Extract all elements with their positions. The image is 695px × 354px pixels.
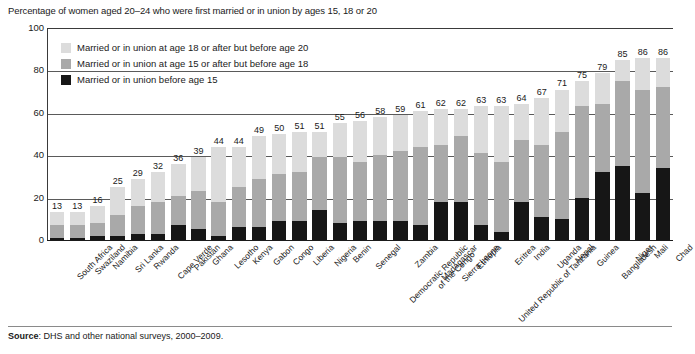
x-tick-label-line: Zambia: [414, 243, 441, 270]
bar-segment-age18to20: [434, 109, 449, 145]
bar-segment-before15: [575, 198, 590, 240]
bar-segment-age15to18: [393, 151, 408, 221]
bar-segment-before15: [615, 166, 630, 240]
bar-stack: [211, 147, 226, 240]
bar-value-label: 63: [476, 95, 486, 105]
bar-segment-age15to18: [312, 157, 327, 210]
bar-segment-age18to20: [211, 147, 226, 202]
bar-value-label: 44: [234, 136, 244, 146]
bar-segment-age18to20: [110, 187, 125, 215]
bar-segment-before15: [373, 221, 388, 240]
bar-value-label: 36: [173, 153, 183, 163]
bar-segment-age18to20: [656, 58, 671, 88]
bar-segment-before15: [555, 219, 570, 240]
bar-segment-age18to20: [70, 212, 85, 225]
bar-segment-before15: [474, 225, 489, 240]
bar-column[interactable]: 64: [514, 28, 529, 240]
bar-segment-age18to20: [191, 157, 206, 191]
bar-segment-age15to18: [151, 202, 166, 234]
bar-value-label: 79: [597, 62, 607, 72]
bar-segment-age18to20: [393, 115, 408, 151]
bar-segment-age15to18: [272, 174, 287, 221]
bar-column[interactable]: 62: [434, 28, 449, 240]
bar-column[interactable]: 67: [534, 28, 549, 240]
x-tick-label: Liberia: [312, 243, 337, 268]
bar-value-label: 44: [214, 136, 224, 146]
bar-segment-age15to18: [252, 179, 267, 228]
bar-value-label: 55: [335, 112, 345, 122]
legend-item: Married or in union at age 15 or after b…: [61, 56, 391, 71]
bar-value-label: 61: [416, 100, 426, 110]
bar-column[interactable]: 75: [575, 28, 590, 240]
bar-column[interactable]: 86: [656, 28, 671, 240]
bar-column[interactable]: 86: [635, 28, 650, 240]
bar-stack: [171, 164, 186, 240]
bar-segment-age15to18: [110, 215, 125, 236]
bar-column[interactable]: 62: [454, 28, 469, 240]
bar-segment-age15to18: [50, 225, 65, 238]
x-tick-label-line: Guinea: [595, 243, 621, 269]
bar-column[interactable]: 61: [413, 28, 428, 240]
bar-stack: [272, 134, 287, 240]
x-tick-label: Gabon: [272, 243, 297, 268]
legend-label: Married or in union at age 18 or after b…: [77, 42, 308, 53]
bar-segment-before15: [534, 217, 549, 240]
bar-stack: [635, 58, 650, 240]
bar-segment-age15to18: [635, 90, 650, 194]
bar-segment-age15to18: [595, 104, 610, 172]
bar-value-label: 58: [375, 106, 385, 116]
bar-segment-before15: [211, 236, 226, 240]
source-value: : DHS and other national surveys, 2000–2…: [39, 331, 224, 341]
bar-stack: [70, 212, 85, 240]
source-note: Source: DHS and other national surveys, …: [8, 331, 223, 341]
bar-value-label: 29: [133, 168, 143, 178]
x-axis-labels: South AfricaSwazilandNamibiaSri LankaRwa…: [47, 243, 673, 338]
bar-segment-age15to18: [434, 145, 449, 202]
bar-segment-before15: [90, 236, 105, 240]
bar-segment-age15to18: [474, 153, 489, 225]
bar-segment-age15to18: [534, 145, 549, 217]
bar-stack: [575, 81, 590, 240]
bar-stack: [252, 136, 267, 240]
bar-segment-before15: [635, 193, 650, 240]
legend-swatch-before15: [61, 75, 71, 85]
bar-stack: [333, 123, 348, 240]
bar-value-label: 50: [274, 123, 284, 133]
bar-column[interactable]: 63: [494, 28, 509, 240]
bar-column[interactable]: 85: [615, 28, 630, 240]
bar-value-label: 62: [436, 98, 446, 108]
bar-segment-age18to20: [353, 121, 368, 161]
bar-column[interactable]: 71: [555, 28, 570, 240]
y-tick-label: 20: [2, 192, 44, 203]
bar-column[interactable]: 63: [474, 28, 489, 240]
bar-column[interactable]: 59: [393, 28, 408, 240]
bar-value-label: 51: [294, 121, 304, 131]
bar-value-label: 56: [355, 110, 365, 120]
bar-segment-before15: [333, 223, 348, 240]
bar-value-label: 59: [395, 104, 405, 114]
bar-value-label: 86: [658, 47, 668, 57]
bar-stack: [353, 121, 368, 240]
y-tick-label: 0: [2, 234, 44, 245]
bar-segment-before15: [413, 225, 428, 240]
bar-segment-before15: [151, 234, 166, 240]
bar-segment-age18to20: [312, 132, 327, 157]
bar-segment-age15to18: [70, 225, 85, 238]
bar-segment-age15to18: [292, 172, 307, 221]
bar-value-label: 13: [72, 201, 82, 211]
y-tick-label: 100: [2, 22, 44, 33]
bar-segment-age15to18: [333, 157, 348, 223]
bar-segment-age18to20: [232, 147, 247, 187]
x-tick-label: Congo: [292, 243, 316, 267]
y-axis: 020406080100: [0, 28, 44, 240]
y-tick-label: 80: [2, 64, 44, 75]
bar-segment-age15to18: [373, 155, 388, 221]
bar-segment-age18to20: [171, 164, 186, 196]
bar-value-label: 64: [517, 93, 527, 103]
bar-segment-age18to20: [454, 109, 469, 137]
page-title: Percentage of women aged 20–24 who were …: [8, 5, 377, 16]
bar-stack: [615, 60, 630, 240]
bar-stack: [373, 117, 388, 240]
bar-segment-before15: [353, 221, 368, 240]
bar-column[interactable]: 79: [595, 28, 610, 240]
